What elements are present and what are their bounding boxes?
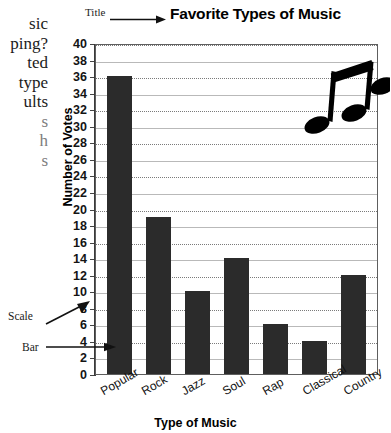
title-annotation-label: Title xyxy=(85,6,105,18)
y-axis-tick-label: 34 xyxy=(73,87,87,100)
bar-slot xyxy=(139,45,178,374)
bar-slot xyxy=(256,45,295,374)
bar-annotation-arrow-icon xyxy=(46,341,116,353)
y-axis-tick-label: 12 xyxy=(73,269,87,282)
chart-title: Favorite Types of Music xyxy=(170,5,341,23)
music-note-icon xyxy=(298,58,390,140)
x-axis-tick-label: Jazz xyxy=(179,374,207,398)
side-text-line: ults xyxy=(0,92,48,112)
bar-rock xyxy=(146,217,170,374)
y-axis-tick-label: 10 xyxy=(73,286,87,299)
clipped-side-paragraph: sic ping? ted type ults s h s xyxy=(0,14,48,170)
bar-rap xyxy=(263,324,287,374)
y-axis-tick-label: 38 xyxy=(73,54,87,67)
side-text-line: sic xyxy=(0,14,48,34)
side-text-line: ted xyxy=(0,53,48,73)
title-annotation-arrow-icon xyxy=(110,15,166,24)
bar-country xyxy=(341,275,365,374)
bar-annotation-label: Bar xyxy=(22,341,39,353)
bar-slot xyxy=(178,45,217,374)
side-text-line: ping? xyxy=(0,34,48,54)
scale-annotation-arrow-icon xyxy=(46,300,90,326)
bar-popular xyxy=(107,76,131,374)
y-axis-tick-label: 22 xyxy=(73,187,87,200)
side-text-line: h xyxy=(0,131,48,151)
y-axis-tick-label: 2 xyxy=(80,352,87,365)
side-text-line: s xyxy=(0,112,48,132)
x-axis-tick-label: Soul xyxy=(220,374,248,398)
side-text-line: s xyxy=(0,151,48,171)
bar-classical xyxy=(302,341,326,374)
y-axis-tick-label: 24 xyxy=(73,170,87,183)
bar-slot xyxy=(217,45,256,374)
y-axis-tick-label: 40 xyxy=(73,38,87,51)
bar-soul xyxy=(224,258,248,374)
scale-annotation-label: Scale xyxy=(8,310,33,322)
y-axis-tick-label: 16 xyxy=(73,236,87,249)
y-axis-tick-label: 14 xyxy=(73,253,87,266)
y-axis-tick-label: 26 xyxy=(73,154,87,167)
x-axis-tick-label: Rock xyxy=(139,372,170,398)
bar-slot xyxy=(100,45,139,374)
y-axis-tick-label: 18 xyxy=(73,220,87,233)
y-axis-tick-label: 0 xyxy=(80,369,87,382)
y-axis-tick-label: 36 xyxy=(73,71,87,84)
y-axis-tick-label: 28 xyxy=(73,137,87,150)
bar-jazz xyxy=(185,291,209,374)
side-text-line: type xyxy=(0,73,48,93)
y-axis-tick-label: 32 xyxy=(73,104,87,117)
x-axis-title: Type of Music xyxy=(0,416,391,430)
y-axis-tick-label: 20 xyxy=(73,203,87,216)
x-axis-tick-label: Rap xyxy=(260,375,286,398)
y-axis-tick-label: 30 xyxy=(73,121,87,134)
